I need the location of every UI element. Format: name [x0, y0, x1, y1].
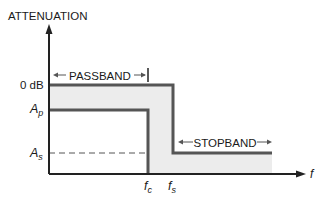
passband-left-arrowhead-icon	[53, 73, 58, 78]
x-axis-arrow-icon	[296, 171, 306, 178]
as-label: As	[29, 146, 43, 162]
x-axis-label: f	[310, 167, 315, 181]
stopband-right-arrowhead-icon	[267, 140, 272, 145]
stopband-shaded-region	[173, 153, 272, 174]
fs-label: fs	[168, 179, 176, 195]
passband-right-arrowhead-icon	[141, 73, 146, 78]
passband-allowed-region	[49, 110, 148, 174]
stopband-label: STOPBAND	[193, 137, 256, 149]
passband-label: PASSBAND	[69, 70, 131, 82]
stopband-left-arrowhead-icon	[178, 140, 183, 145]
y-axis-arrow-icon	[46, 24, 53, 34]
zero-db-label: 0 dB	[20, 79, 44, 91]
filter-attenuation-diagram: PASSBAND STOPBAND ATTENUATION f 0 dB Ap …	[0, 0, 323, 201]
ap-label: Ap	[29, 102, 43, 118]
fc-label: fc	[144, 179, 152, 195]
y-axis-label: ATTENUATION	[8, 10, 87, 22]
